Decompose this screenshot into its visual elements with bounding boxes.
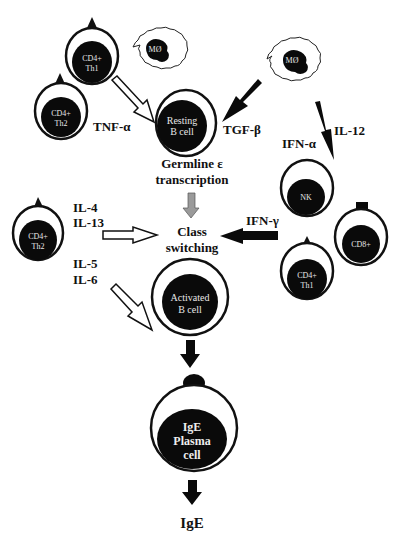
arrow-activated-to-plasma bbox=[180, 340, 200, 368]
th2-lower-line1: CD4+ bbox=[28, 232, 48, 241]
cell-macrophage-left: MØ bbox=[133, 27, 188, 69]
label-tnf-alpha: TNF-α bbox=[93, 119, 131, 134]
label-ifn-alpha: IFN-α bbox=[282, 136, 317, 151]
cell-ige-plasma: IgE Plasma cell bbox=[151, 374, 237, 471]
label-class-1: Class bbox=[177, 224, 207, 239]
th2-lower-line2: Th2 bbox=[32, 242, 45, 251]
th1-right-line2: Th1 bbox=[301, 281, 314, 290]
mo-right-label: MØ bbox=[286, 56, 299, 65]
cell-cd4-th1-right: CD4+ Th1 bbox=[281, 236, 333, 299]
arrow-mo-to-nk bbox=[315, 101, 334, 160]
cell-cd8: CD8+ bbox=[335, 202, 387, 265]
arrow-plasma-to-ige bbox=[182, 480, 202, 505]
mo-left-label: MØ bbox=[149, 45, 162, 54]
activated-b-line2: B cell bbox=[178, 304, 202, 315]
cell-activated-b: Activated B cell bbox=[152, 259, 228, 335]
cell-cd4-th1-top: CD4+ Th1 bbox=[66, 17, 118, 84]
th2-upper-line2: Th2 bbox=[55, 119, 68, 128]
cell-cd4-th2-upper: CD4+ Th2 bbox=[35, 73, 87, 139]
th2-upper-line1: CD4+ bbox=[51, 109, 71, 118]
label-tgf-beta: TGF-β bbox=[223, 122, 261, 137]
label-germline-1: Germline ε bbox=[161, 156, 223, 171]
label-ifn-gamma: IFN-γ bbox=[246, 213, 279, 228]
resting-b-line1: Resting bbox=[167, 115, 198, 126]
ige-pathway-diagram: CD4+ Th1 MØ CD4+ Th2 TNF-α Resting B cel… bbox=[0, 0, 401, 541]
cd8-label: CD8+ bbox=[351, 240, 371, 249]
nk-label: NK bbox=[300, 193, 312, 202]
cell-nk: NK bbox=[281, 160, 333, 216]
label-ige-output: IgE bbox=[180, 515, 203, 531]
activated-b-line1: Activated bbox=[171, 292, 210, 303]
cell-macrophage-right: MØ bbox=[267, 37, 321, 81]
label-il6: IL-6 bbox=[73, 272, 98, 287]
plasma-line2: Plasma bbox=[173, 434, 210, 448]
arrow-il5-il6-to-activated-b bbox=[111, 284, 152, 330]
plasma-line3: cell bbox=[183, 448, 201, 462]
plasma-line1: IgE bbox=[183, 420, 202, 434]
arrow-germline-to-switching bbox=[183, 193, 199, 218]
th1-top-line2: Th1 bbox=[86, 64, 99, 73]
label-il12: IL-12 bbox=[334, 123, 365, 138]
arrow-th2-to-switching bbox=[103, 227, 157, 243]
cell-cd4-th2-lower: CD4+ Th2 bbox=[13, 197, 63, 260]
arrow-mo-to-resting-b bbox=[222, 79, 262, 122]
cell-resting-b: Resting B cell bbox=[156, 90, 216, 156]
th1-right-line1: CD4+ bbox=[297, 271, 317, 280]
label-germline-2: transcription bbox=[156, 172, 230, 187]
arrow-th1-to-resting-b bbox=[112, 76, 154, 122]
label-il4: IL-4 bbox=[73, 200, 98, 215]
label-il5: IL-5 bbox=[73, 256, 98, 271]
resting-b-line2: B cell bbox=[170, 126, 194, 137]
arrow-ifn-gamma-to-switching bbox=[220, 228, 278, 244]
label-class-2: switching bbox=[166, 240, 219, 255]
th1-top-line1: CD4+ bbox=[82, 54, 102, 63]
label-il13: IL-13 bbox=[73, 215, 105, 230]
